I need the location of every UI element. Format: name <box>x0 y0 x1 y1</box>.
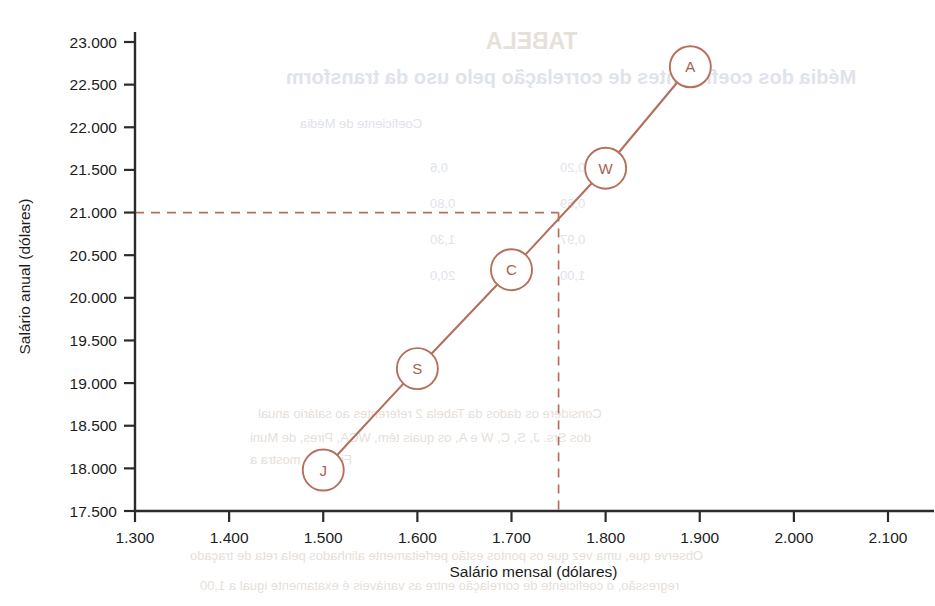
data-point-marker: A <box>670 46 711 87</box>
y-axis-title: Salário anual (dólares) <box>16 199 33 355</box>
marker-label: A <box>685 58 695 75</box>
x-tick-label: 2.000 <box>774 529 813 546</box>
series-segment <box>619 82 677 152</box>
data-point-marker: W <box>585 148 626 189</box>
x-tick-label: 1.600 <box>398 529 437 546</box>
x-tick-label: 1.800 <box>586 529 625 546</box>
data-point-marker: C <box>491 249 532 290</box>
y-tick-label: 21.500 <box>70 161 118 178</box>
chart-figure: 17.50018.00018.50019.00019.50020.00020.5… <box>0 0 935 606</box>
x-tick-label: 1.500 <box>304 529 343 546</box>
y-axis-ticks: 17.50018.00018.50019.00019.50020.00020.5… <box>70 34 135 520</box>
salary-scatter-line-chart: 17.50018.00018.50019.00019.50020.00020.5… <box>0 0 935 606</box>
marker-label: S <box>412 360 422 377</box>
series-segment <box>432 285 498 354</box>
y-tick-label: 18.000 <box>70 460 118 477</box>
y-tick-label: 20.000 <box>70 289 118 306</box>
x-tick-label: 1.700 <box>492 529 531 546</box>
data-point-marker: S <box>397 348 438 389</box>
x-axis-ticks: 1.3001.4001.5001.6001.7001.8001.9002.000… <box>116 511 908 546</box>
x-tick-label: 1.400 <box>210 529 249 546</box>
y-tick-label: 22.000 <box>70 119 118 136</box>
y-tick-label: 20.500 <box>70 247 118 264</box>
series-segment <box>525 183 591 254</box>
marker-label: J <box>320 462 328 479</box>
y-tick-label: 22.500 <box>70 76 118 93</box>
y-tick-label: 19.000 <box>70 375 118 392</box>
x-tick-label: 2.100 <box>869 529 908 546</box>
marker-label: C <box>506 261 517 278</box>
marker-label: W <box>599 160 614 177</box>
y-tick-label: 21.000 <box>70 204 118 221</box>
y-tick-label: 17.500 <box>70 503 118 520</box>
y-tick-label: 23.000 <box>70 34 118 51</box>
y-tick-label: 19.500 <box>70 332 118 349</box>
x-tick-label: 1.900 <box>680 529 719 546</box>
data-point-marker: J <box>303 450 344 491</box>
x-axis-title: Salário mensal (dólares) <box>450 563 618 580</box>
y-tick-label: 18.500 <box>70 417 118 434</box>
series-segment <box>337 384 403 455</box>
data-point-markers: JSCWA <box>303 46 711 490</box>
x-tick-label: 1.300 <box>116 529 155 546</box>
